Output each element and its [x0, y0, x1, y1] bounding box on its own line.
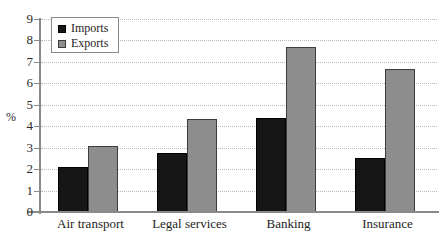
legend-item-exports: Exports — [58, 36, 118, 51]
y-axis-title: % — [6, 111, 16, 124]
y-axis-tick — [34, 169, 40, 170]
y-axis-tick-label: 0 — [3, 205, 33, 218]
x-axis-label-insurance: Insurance — [328, 216, 448, 232]
x-axis-line — [27, 211, 439, 213]
gridline — [41, 126, 437, 127]
y-axis-tick — [34, 105, 40, 106]
y-axis-tick — [34, 19, 40, 20]
bar-exports-insurance — [385, 69, 415, 212]
y-axis-tick — [34, 148, 40, 149]
y-axis-tick-label: 3 — [3, 141, 33, 154]
y-axis-tick-label: 8 — [3, 33, 33, 46]
bar-imports-insurance — [355, 158, 385, 212]
y-axis-tick — [34, 126, 40, 127]
y-axis-tick-label-wrap: 0 — [0, 205, 33, 218]
y-axis-tick — [34, 40, 40, 41]
gridline — [41, 62, 437, 63]
y-axis-line — [39, 18, 41, 214]
y-axis-tick-label: 9 — [3, 12, 33, 25]
y-axis-tick-label: 2 — [3, 162, 33, 175]
y-axis-tick-label-wrap: 7 — [0, 55, 33, 68]
legend-swatch-imports-icon — [58, 25, 66, 33]
y-axis-tick-label-wrap: 5 — [0, 98, 33, 111]
legend-item-imports: Imports — [58, 21, 118, 36]
bar-imports-air-transport — [58, 167, 88, 212]
y-axis-tick — [34, 191, 40, 192]
y-axis-tick-label-wrap: 8 — [0, 33, 33, 46]
y-axis-tick-label-wrap: 9 — [0, 12, 33, 25]
gridline — [41, 105, 437, 106]
chart-legend: Imports Exports — [51, 17, 119, 53]
y-axis-tick — [34, 212, 40, 213]
y-axis-tick-label: 1 — [3, 184, 33, 197]
y-axis-tick-label-wrap: 1 — [0, 184, 33, 197]
gridline — [41, 83, 437, 84]
y-axis-tick-label: 5 — [3, 98, 33, 111]
bar-exports-air-transport — [88, 146, 118, 212]
bar-imports-legal-services — [157, 153, 187, 212]
bar-exports-legal-services — [187, 119, 217, 212]
y-axis-tick-label-wrap: 4 — [0, 119, 33, 132]
legend-swatch-exports-icon — [58, 40, 66, 48]
y-axis-tick-label: 7 — [3, 55, 33, 68]
y-axis-tick — [34, 62, 40, 63]
y-axis-tick-label-wrap: 3 — [0, 141, 33, 154]
bar-chart: 0123456789 % Air transportLegal services… — [0, 0, 448, 241]
bar-imports-banking — [256, 118, 286, 212]
bar-exports-banking — [286, 47, 316, 212]
y-axis-tick-label-wrap: 2 — [0, 162, 33, 175]
legend-label-imports: Imports — [71, 22, 108, 35]
y-axis-tick — [34, 83, 40, 84]
legend-label-exports: Exports — [71, 37, 108, 50]
y-axis-tick-label: 6 — [3, 76, 33, 89]
y-axis-tick-label-wrap: 6 — [0, 76, 33, 89]
